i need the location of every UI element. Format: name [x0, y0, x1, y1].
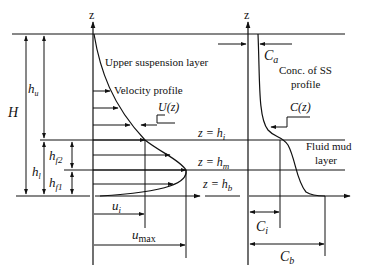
fluid-mud-profile-diagram: z z Upper suspension layer Velocity prof…: [0, 0, 365, 274]
ca-label: Ca: [264, 48, 278, 65]
fluid-mud-line1: Fluid mud: [306, 140, 352, 152]
cz-leader: [287, 117, 310, 127]
cb-label: Cb: [280, 249, 294, 266]
cz-label: C(z): [290, 100, 311, 114]
z-hm-label: z = hm: [197, 155, 230, 171]
z-hi-label: z = hi: [197, 126, 226, 142]
upper-layer-label: Upper suspension layer: [105, 56, 209, 68]
H-label: H: [7, 105, 19, 120]
umax-label: umax: [132, 227, 156, 244]
right-z-label: z: [244, 8, 249, 22]
hu-label: hu: [28, 81, 39, 98]
z-hb-label: z = hb: [202, 177, 233, 193]
hf2-label: hf2: [49, 148, 63, 165]
hl-label: hl: [32, 164, 42, 181]
hf1-label: hf1: [49, 175, 63, 192]
left-z-label: z: [89, 8, 94, 22]
fluid-mud-line2: layer: [315, 154, 337, 166]
conc-title-line2: profile: [291, 78, 320, 90]
uz-label: U(z): [158, 100, 179, 114]
uz-leader: [157, 115, 175, 123]
conc-title-line1: Conc. of SS: [279, 64, 332, 76]
ui-label: ui: [112, 198, 122, 215]
velocity-profile-label: Velocity profile: [114, 84, 183, 96]
ci-label: Ci: [256, 219, 268, 236]
